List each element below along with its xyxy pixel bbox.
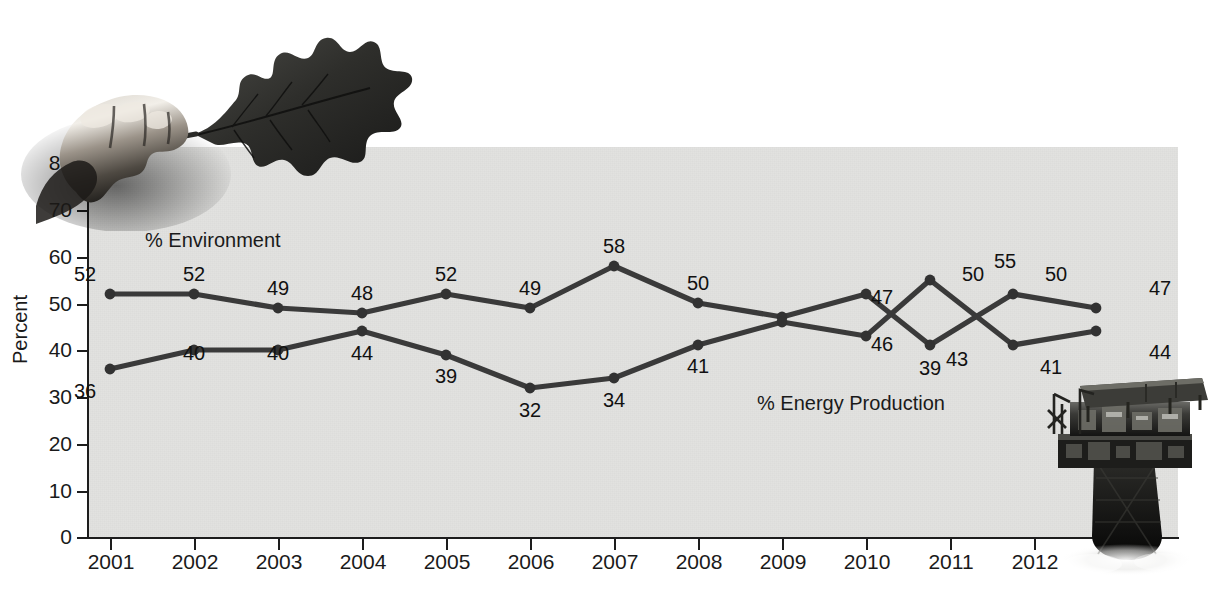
y-tick-label-10: 10 bbox=[34, 480, 72, 501]
chart-canvas: 80 70 60 50 40 30 20 10 0 Percent bbox=[0, 0, 1208, 590]
value-label: 58 bbox=[589, 236, 639, 256]
x-tick-label-2004: 2004 bbox=[318, 551, 408, 572]
y-axis-line bbox=[87, 147, 89, 539]
series-label-energy-production: % Energy Production bbox=[757, 393, 945, 413]
x-axis-line bbox=[87, 537, 1179, 539]
value-label: 40 bbox=[169, 343, 219, 363]
value-label: 52 bbox=[169, 264, 219, 284]
series-label-environment: % Environment bbox=[145, 230, 281, 250]
y-tick-label-20: 20 bbox=[34, 433, 72, 454]
y-tick-label-40: 40 bbox=[34, 339, 72, 360]
value-label: 39 bbox=[421, 366, 471, 386]
value-label: 46 bbox=[857, 334, 907, 354]
x-tick-label-2009: 2009 bbox=[738, 551, 828, 572]
y-tick-label-50: 50 bbox=[34, 293, 72, 314]
x-tick-label-2010: 2010 bbox=[822, 551, 912, 572]
value-label: 44 bbox=[337, 343, 387, 363]
value-label: 43 bbox=[932, 349, 982, 369]
x-tick-label-2011: 2011 bbox=[906, 551, 996, 572]
value-label: 52 bbox=[60, 264, 110, 284]
value-label: 48 bbox=[337, 283, 387, 303]
value-label: 44 bbox=[1135, 342, 1185, 362]
x-tick-label-2002: 2002 bbox=[150, 551, 240, 572]
value-label: 52 bbox=[421, 264, 471, 284]
value-label: 47 bbox=[857, 287, 907, 307]
x-tick-label-2006: 2006 bbox=[486, 551, 576, 572]
y-tick-label-80: 80 bbox=[34, 152, 72, 173]
x-tick-label-2007: 2007 bbox=[570, 551, 660, 572]
value-label: 34 bbox=[589, 390, 639, 410]
x-tick-label-2003: 2003 bbox=[234, 551, 324, 572]
value-label: 47 bbox=[1135, 278, 1185, 298]
value-label: 49 bbox=[253, 278, 303, 298]
y-axis-title: Percent bbox=[9, 280, 32, 380]
value-label: 50 bbox=[1031, 264, 1081, 284]
value-label: 50 bbox=[673, 273, 723, 293]
value-label: 49 bbox=[505, 278, 555, 298]
value-label: 41 bbox=[673, 356, 723, 376]
plot-area-background bbox=[88, 147, 1178, 538]
value-label: 55 bbox=[980, 251, 1030, 271]
value-label: 40 bbox=[253, 343, 303, 363]
x-tick-label-2012: 2012 bbox=[990, 551, 1080, 572]
y-tick-label-0: 0 bbox=[34, 526, 72, 547]
x-tick-label-2008: 2008 bbox=[654, 551, 744, 572]
value-label: 41 bbox=[1026, 357, 1076, 377]
value-label: 36 bbox=[60, 381, 110, 401]
x-tick-label-2005: 2005 bbox=[402, 551, 492, 572]
y-tick-label-70: 70 bbox=[34, 199, 72, 220]
value-label: 32 bbox=[505, 400, 555, 420]
x-tick-label-2001: 2001 bbox=[66, 551, 156, 572]
